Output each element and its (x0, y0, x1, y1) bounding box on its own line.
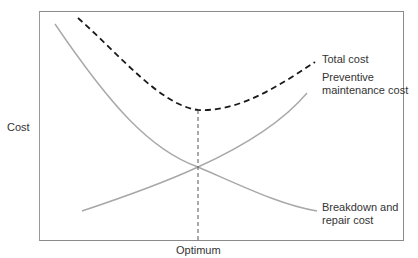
preventive-maintenance-curve (82, 93, 307, 211)
breakdown-repair-curve (55, 24, 317, 211)
breakdown-repair-label: Breakdown and repair cost (322, 201, 398, 227)
y-axis-label: Cost (7, 121, 30, 134)
total-cost-curve (78, 18, 315, 110)
preventive-label-line1: Preventive (322, 71, 408, 84)
breakdown-label-line2: repair cost (322, 214, 398, 227)
preventive-maintenance-label: Preventive maintenance cost (322, 71, 408, 97)
preventive-label-line2: maintenance cost (322, 84, 408, 97)
x-axis-label-optimum: Optimum (176, 244, 221, 257)
breakdown-label-line1: Breakdown and (322, 201, 398, 214)
total-cost-label: Total cost (322, 53, 368, 66)
